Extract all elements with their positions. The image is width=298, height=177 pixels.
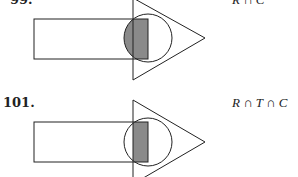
diagram-99 [34,0,205,80]
shaded-region [133,122,148,162]
rectangle-R [34,122,148,162]
venn-diagrams [0,0,298,177]
diagram-101 [34,100,205,177]
